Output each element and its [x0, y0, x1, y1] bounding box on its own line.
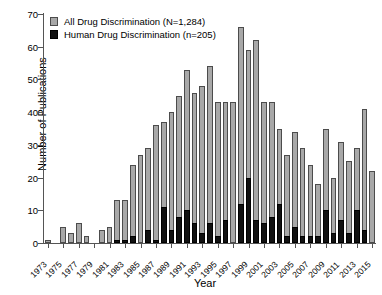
bar-group — [76, 14, 82, 243]
bar-human-drug-discrimination — [269, 217, 275, 243]
bar-all-drug-discrimination — [362, 109, 368, 243]
bar-group — [269, 14, 275, 243]
x-axis-tick — [233, 244, 234, 248]
x-axis-tick — [171, 244, 172, 248]
legend-swatch-all-icon — [50, 17, 58, 26]
y-axis-tick-label: 20 — [8, 173, 38, 184]
bar-human-drug-discrimination — [292, 227, 298, 243]
bar-human-drug-discrimination — [354, 210, 360, 243]
bar-all-drug-discrimination — [169, 112, 175, 243]
bar-group — [53, 14, 59, 243]
bar-all-drug-discrimination — [261, 102, 267, 243]
y-axis-tick — [38, 178, 43, 179]
x-axis-tick — [310, 244, 311, 248]
bar-human-drug-discrimination — [323, 210, 329, 243]
publications-bar-chart: Number of Publications Year 010203040506… — [0, 0, 382, 295]
bar-group — [284, 14, 290, 243]
bar-human-drug-discrimination — [122, 240, 128, 243]
bar-group — [277, 14, 283, 243]
x-axis-tick — [326, 244, 327, 248]
bar-human-drug-discrimination — [331, 233, 337, 243]
bar-group — [60, 14, 66, 243]
bar-all-drug-discrimination — [114, 200, 120, 243]
bar-human-drug-discrimination — [153, 240, 159, 243]
bar-all-drug-discrimination — [68, 233, 74, 243]
bar-group — [362, 14, 368, 243]
y-axis-tick — [38, 145, 43, 146]
bar-human-drug-discrimination — [315, 236, 321, 243]
x-axis-tick — [48, 244, 49, 248]
bar-human-drug-discrimination — [238, 204, 244, 243]
bar-all-drug-discrimination — [138, 155, 144, 243]
legend-swatch-human-icon — [50, 30, 58, 39]
x-axis-tick — [357, 244, 358, 248]
bar-human-drug-discrimination — [277, 204, 283, 243]
bar-group — [230, 14, 236, 243]
bar-group — [253, 14, 259, 243]
x-axis-tick — [79, 244, 80, 248]
legend-item-all: All Drug Discrimination (N=1,284) — [50, 15, 216, 27]
bar-group — [331, 14, 337, 243]
bar-group — [130, 14, 136, 243]
chart-legend: All Drug Discrimination (N=1,284) Human … — [50, 15, 216, 41]
x-axis-tick — [110, 244, 111, 248]
x-axis-tick — [264, 244, 265, 248]
bar-human-drug-discrimination — [253, 220, 259, 243]
y-axis-tick-label: 70 — [8, 9, 38, 20]
bar-all-drug-discrimination — [122, 200, 128, 243]
x-axis-tick — [295, 244, 296, 248]
bar-group — [354, 14, 360, 243]
bar-group — [68, 14, 74, 243]
bar-all-drug-discrimination — [153, 125, 159, 243]
y-axis-tick-label: 60 — [8, 42, 38, 53]
x-axis-tick — [187, 244, 188, 248]
bar-human-drug-discrimination — [261, 223, 267, 243]
bar-human-drug-discrimination — [346, 233, 352, 243]
bar-group — [238, 14, 244, 243]
bar-group — [338, 14, 344, 243]
bar-all-drug-discrimination — [76, 223, 82, 243]
bar-group — [292, 14, 298, 243]
x-axis-tick — [279, 244, 280, 248]
x-axis-tick — [125, 244, 126, 248]
bar-group — [91, 14, 97, 243]
bar-all-drug-discrimination — [207, 66, 213, 243]
y-axis-tick — [38, 210, 43, 211]
bar-human-drug-discrimination — [338, 220, 344, 243]
bar-group — [107, 14, 113, 243]
y-axis-tick — [38, 79, 43, 80]
bar-human-drug-discrimination — [192, 223, 198, 243]
bar-all-drug-discrimination — [199, 86, 205, 243]
bar-human-drug-discrimination — [114, 240, 120, 243]
bar-group — [199, 14, 205, 243]
legend-item-human: Human Drug Discrimination (n=205) — [50, 28, 216, 40]
bar-human-drug-discrimination — [215, 236, 221, 243]
bar-all-drug-discrimination — [192, 93, 198, 243]
bar-all-drug-discrimination — [60, 227, 66, 243]
bar-all-drug-discrimination — [215, 102, 221, 243]
legend-label-all: All Drug Discrimination (N=1,284) — [64, 16, 205, 27]
y-axis-tick-label: 50 — [8, 74, 38, 85]
bar-human-drug-discrimination — [207, 223, 213, 243]
y-axis-tick-label: 40 — [8, 107, 38, 118]
bar-all-drug-discrimination — [45, 240, 51, 243]
bar-group — [346, 14, 352, 243]
bar-all-drug-discrimination — [346, 161, 352, 243]
bar-all-drug-discrimination — [253, 40, 259, 243]
bar-group — [99, 14, 105, 243]
y-axis-tick-label: 10 — [8, 205, 38, 216]
x-axis-tick — [94, 244, 95, 248]
bar-group — [192, 14, 198, 243]
bar-all-drug-discrimination — [230, 102, 236, 243]
bar-all-drug-discrimination — [308, 165, 314, 244]
y-axis-tick-label: 0 — [8, 238, 38, 249]
bar-group — [261, 14, 267, 243]
bar-human-drug-discrimination — [145, 230, 151, 243]
bar-human-drug-discrimination — [199, 233, 205, 243]
bar-all-drug-discrimination — [84, 236, 90, 243]
bar-group — [308, 14, 314, 243]
y-axis-tick — [38, 243, 43, 244]
x-axis-tick — [202, 244, 203, 248]
bar-group — [161, 14, 167, 243]
bar-group — [369, 14, 375, 243]
